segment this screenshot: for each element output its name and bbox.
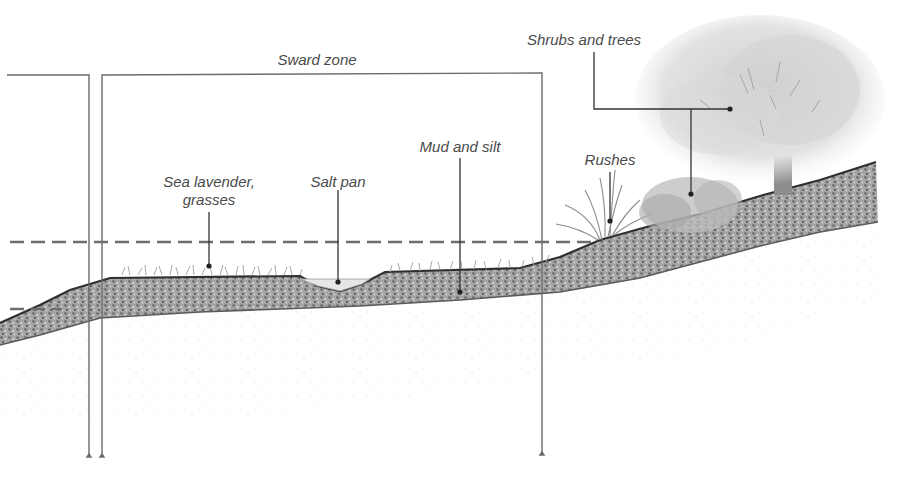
shrubs-dot [688, 191, 693, 196]
mud-and-silt-label: Mud and silt [405, 138, 515, 156]
salt-pan-label: Salt pan [298, 173, 378, 191]
sea-lavender-grasses-label: Sea lavender, grasses [149, 173, 269, 209]
sea-lavender-label-line1: Sea lavender, [149, 173, 269, 191]
shrubs-and-trees-label: Shrubs and trees [519, 31, 649, 49]
salt-pan-dot [335, 279, 340, 284]
diagram-canvas [0, 0, 915, 477]
tree [635, 15, 885, 195]
sea-lavender-dot [206, 263, 211, 268]
mud-silt-dot [457, 289, 462, 294]
tree-dot [727, 106, 732, 111]
salt-marsh-diagram: Sward zone Sea lavender, grasses Salt pa… [0, 0, 915, 477]
sward-zone-label: Sward zone [267, 51, 367, 69]
rushes-label: Rushes [575, 151, 645, 169]
sea-lavender-label-line2: grasses [149, 191, 269, 209]
rushes-dot [607, 218, 612, 223]
